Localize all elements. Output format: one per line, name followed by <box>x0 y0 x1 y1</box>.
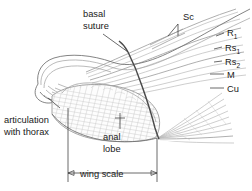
vein-label-r1: R1 <box>227 28 238 40</box>
vein-label-rs1: Rs1 <box>225 43 240 55</box>
wing-vein-group-anterior <box>86 9 246 98</box>
vein-label-rs2: Rs2 <box>225 57 240 69</box>
rs2-leader <box>214 61 222 62</box>
basal-suture-leader <box>103 34 128 52</box>
basal-suture-label-line2: suture <box>83 21 109 31</box>
wing-scale-label: wing scale <box>79 169 123 179</box>
basal-suture-label-line1: basal <box>83 9 105 19</box>
sc-leader-a <box>168 24 178 36</box>
anal-lobe-label-line2: lobe <box>103 144 121 154</box>
anal-lobe-label-line1: anal <box>103 132 121 142</box>
vein-label-sc: Sc <box>183 12 194 22</box>
articulation-label-line2: with thorax <box>3 127 49 137</box>
articulation-label-line1: articulation <box>4 115 49 125</box>
vein-label-cu: Cu <box>227 84 239 94</box>
vein-label-m: M <box>227 70 235 80</box>
wing-base-diagram: basal suture articulation with thorax an… <box>0 0 252 191</box>
wing-vein-group-posterior <box>158 93 234 157</box>
